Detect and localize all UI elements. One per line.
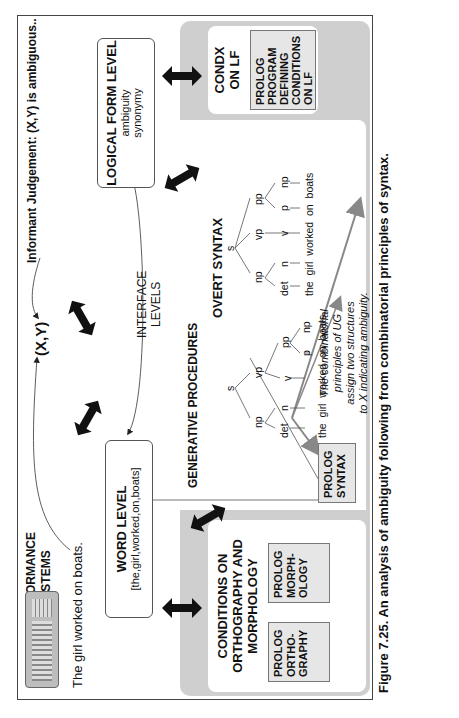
tree2-node-det: det <box>278 281 290 296</box>
tree2-node-n: n <box>278 261 290 267</box>
tree1-lines <box>235 328 310 428</box>
ortho-morph-title: CONDITIONS ON ORTHOGRAPHY AND MORPHOLOGY <box>215 520 260 692</box>
tree1-node-vp: vp <box>252 367 264 378</box>
tree1-node-pp: pp <box>279 336 291 348</box>
prolog-orthography-box: PROLOG ORTHO- GRAPHY <box>268 622 330 682</box>
tree1-node-s: s <box>224 386 236 391</box>
tree2-node-p: p <box>278 205 290 211</box>
tree1-node-np: np <box>252 416 264 428</box>
tree2-node-np2: np <box>278 176 290 188</box>
tree2-node-pp: pp <box>252 193 264 205</box>
tree2-lines <box>235 183 300 286</box>
tree1-node-n: n <box>278 405 290 411</box>
prolog-morphology-box: PROLOG MORPH- OLOGY <box>268 543 330 603</box>
xy-representation: (X,Y) <box>32 322 49 356</box>
tree1-node-v: v <box>281 376 293 381</box>
input-sentence: The girl worked on boats. <box>70 542 85 688</box>
word-level-box: WORD LEVEL [the,girl,worked,on,boats] <box>105 440 153 618</box>
keyboard-numpad <box>32 599 52 617</box>
overt-syntax-title: OVERT SYNTAX <box>210 218 225 318</box>
tree2-node-np: np <box>252 271 264 283</box>
tree2-node-s: s <box>224 246 236 251</box>
figure-caption: Figure 7.25. An analysis of ambiguity fo… <box>376 153 391 693</box>
prolog-condx-box: PROLOG PROGRAM DEFINING CONDITIONS ON LF <box>250 30 316 110</box>
tree2-node-v: v <box>278 231 290 236</box>
informant-judgement: Informant Judgement: (X,Y) is ambiguous.… <box>25 18 39 263</box>
tree2-node-vp: vp <box>252 229 264 240</box>
keyboard-icon <box>25 591 59 688</box>
tree2-words: the girl worked on boats <box>303 173 315 296</box>
tree1-node-np2: np <box>300 321 312 333</box>
tree1-node-det: det <box>278 423 290 438</box>
logical-form-level-box: LOGICAL FORM LEVEL ambiguity synonymy <box>97 38 155 188</box>
keyboard-keys <box>32 621 52 681</box>
tree1-node-p: p <box>300 350 312 356</box>
interface-levels-label: INTERFACE LEVELS <box>135 271 163 338</box>
condx-title: CONDX ON LF <box>212 26 242 114</box>
figure-stage: GENERATIVE PROCEDURES <box>0 0 459 718</box>
ug-principles-note: The combinatorial principles of UG assig… <box>318 273 370 433</box>
prolog-syntax-box: PROLOG SYNTAX <box>318 443 356 503</box>
